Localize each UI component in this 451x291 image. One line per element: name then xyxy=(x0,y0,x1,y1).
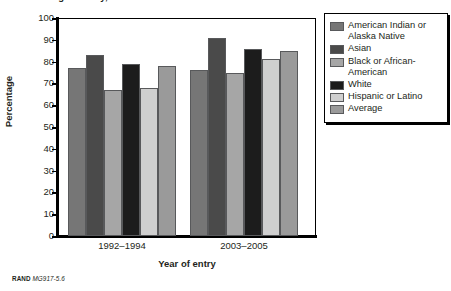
x-tick-label: 1992–1994 xyxy=(68,240,176,251)
y-tick-mark xyxy=(52,149,58,151)
legend-label: Average xyxy=(348,103,382,114)
y-tick-mark xyxy=(52,192,58,194)
legend-item[interactable]: White xyxy=(330,79,443,90)
bar xyxy=(140,88,158,236)
figure-title: Percentage ... entry, ... xyxy=(18,0,318,3)
legend-item[interactable]: Hispanic or Latino xyxy=(330,91,443,102)
x-axis-title: Year of entry xyxy=(58,258,316,269)
legend-swatch-icon xyxy=(330,93,344,102)
legend-label: Black or African-American xyxy=(348,56,443,78)
x-tick-label: 2003–2005 xyxy=(190,240,298,251)
bar xyxy=(190,70,208,236)
y-tick-mark xyxy=(52,236,58,238)
y-tick-mark xyxy=(52,171,58,173)
legend-item[interactable]: American Indian or Alaska Native xyxy=(330,20,443,42)
footer-brand: RAND xyxy=(12,275,31,282)
figure-container: Percentage ... entry, ... 01020304050607… xyxy=(0,0,451,291)
bar xyxy=(244,49,262,236)
legend-label: American Indian or Alaska Native xyxy=(348,20,443,42)
legend-swatch-icon xyxy=(330,81,344,90)
plot-area: 1992–19942003–2005 xyxy=(58,18,316,236)
y-axis-title: Percentage xyxy=(3,52,14,152)
y-axis-title-wrap: Percentage xyxy=(0,0,58,236)
bar-group xyxy=(68,18,176,236)
bar xyxy=(226,73,244,237)
y-tick-mark xyxy=(52,62,58,64)
bar xyxy=(262,59,280,236)
y-tick-mark xyxy=(52,40,58,42)
figure-footer: RAND MG917-5.6 xyxy=(12,275,65,282)
legend-item[interactable]: Black or African-American xyxy=(330,56,443,78)
bar xyxy=(86,55,104,236)
y-tick-mark xyxy=(52,105,58,107)
y-tick-mark xyxy=(52,83,58,85)
legend-swatch-icon xyxy=(330,105,344,114)
y-tick-mark xyxy=(52,214,58,216)
legend-item[interactable]: Asian xyxy=(330,43,443,54)
legend-label: Asian xyxy=(348,43,371,54)
legend-swatch-icon xyxy=(330,22,344,31)
bar xyxy=(104,90,122,236)
bar xyxy=(122,64,140,236)
legend-label: Hispanic or Latino xyxy=(348,91,422,102)
y-tick-mark xyxy=(52,18,58,20)
bar xyxy=(68,68,86,236)
legend-swatch-icon xyxy=(330,58,344,67)
legend-item[interactable]: Average xyxy=(330,103,443,114)
legend-label: White xyxy=(348,79,372,90)
bar xyxy=(208,38,226,236)
y-tick-mark xyxy=(52,127,58,129)
legend-swatch-icon xyxy=(330,45,344,54)
bar xyxy=(158,66,176,236)
footer-id: MG917-5.6 xyxy=(32,275,64,282)
bar xyxy=(280,51,298,236)
bar-group xyxy=(190,18,298,236)
legend: American Indian or Alaska NativeAsianBla… xyxy=(324,13,448,123)
